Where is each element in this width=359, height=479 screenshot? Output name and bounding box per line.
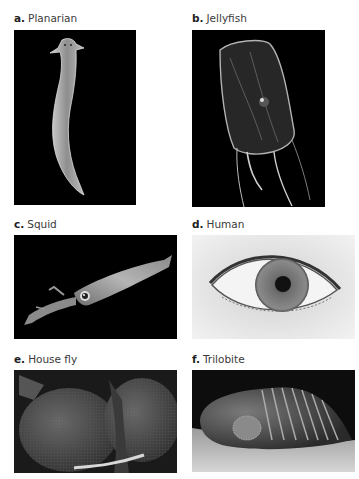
- jellyfish-photo: [192, 30, 325, 207]
- panel-e-caption: e.House fly: [14, 353, 77, 365]
- panel-b-letter: b.: [192, 12, 204, 24]
- squid-photo: [14, 235, 177, 339]
- trilobite-photo: [192, 370, 355, 472]
- panel-c-title: Squid: [27, 218, 57, 230]
- panel-f-caption: f.Trilobite: [192, 353, 245, 365]
- panel-d-caption: d.Human: [192, 218, 244, 230]
- panel-a-caption: a.Planarian: [14, 12, 77, 24]
- panel-a-title: Planarian: [28, 12, 77, 24]
- panel-b-title: Jellyfish: [207, 12, 247, 24]
- panel-f-title: Trilobite: [203, 353, 245, 365]
- panel-b-caption: b.Jellyfish: [192, 12, 247, 24]
- panel-e-letter: e.: [14, 353, 25, 365]
- panel-a-letter: a.: [14, 12, 25, 24]
- panel-f-letter: f.: [192, 353, 200, 365]
- planarian-photo: [14, 30, 136, 205]
- panel-e-title: House fly: [28, 353, 77, 365]
- panel-c-letter: c.: [14, 218, 24, 230]
- human-eye-photo: [192, 235, 355, 339]
- house-fly-photo: [14, 370, 177, 473]
- panel-c-caption: c.Squid: [14, 218, 57, 230]
- panel-d-title: Human: [207, 218, 245, 230]
- panel-d-letter: d.: [192, 218, 204, 230]
